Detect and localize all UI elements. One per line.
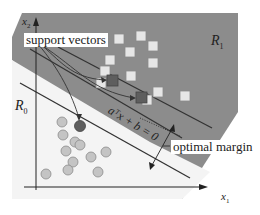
support-vector-square-2 — [136, 92, 147, 103]
x2-axis-label: x2 — [22, 15, 30, 30]
support-vectors-label: support vectors — [24, 33, 108, 47]
region-0-label: R0 — [15, 98, 28, 116]
support-vector-circle — [75, 121, 86, 132]
x1-axis-arrow-icon — [199, 184, 208, 190]
support-vector-square-1 — [107, 75, 118, 86]
region-1-label: R1 — [211, 33, 224, 51]
x1-axis-label: x1 — [221, 190, 229, 205]
optimal-margin-label: optimal margin — [171, 140, 255, 154]
